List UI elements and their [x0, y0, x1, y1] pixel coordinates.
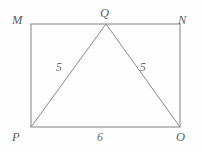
measure-label-base: 6 [97, 132, 103, 144]
vertex-label-q: Q [100, 7, 109, 20]
vertex-label-m: M [12, 14, 22, 27]
measure-label-right-leg: 5 [140, 62, 146, 74]
vertex-label-n: N [178, 14, 186, 27]
triangle-left-leg [31, 24, 106, 127]
vertex-label-p: P [12, 131, 20, 144]
triangle-right-leg [106, 24, 180, 127]
rectangle-mnop [31, 24, 180, 127]
measure-label-left-leg: 5 [56, 62, 62, 74]
vertex-label-o: O [176, 131, 185, 144]
geometry-figure: M N Q P O 5 5 6 [0, 0, 202, 153]
